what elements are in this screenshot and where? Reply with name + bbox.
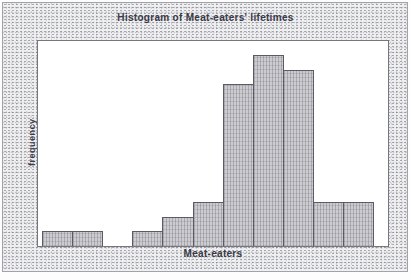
histogram-bar [42,231,73,246]
histogram-bar [313,202,344,246]
plot-area [38,41,388,246]
histogram-bar [162,217,194,246]
histogram-bar [343,202,374,246]
histogram-bar [132,231,163,246]
y-axis-label: frequency [23,100,41,184]
x-axis-label: Meat-eaters [37,248,389,259]
chart-title: Histogram of Meat-eaters' lifetimes [0,12,411,23]
histogram-bar [223,84,254,246]
histogram-bar [283,70,314,246]
plot-panel [37,40,389,247]
histogram-bar [193,202,224,246]
histogram-bar [253,55,284,246]
histogram-bar [72,231,103,246]
figure: Histogram of Meat-eaters' lifetimes freq… [0,0,411,280]
